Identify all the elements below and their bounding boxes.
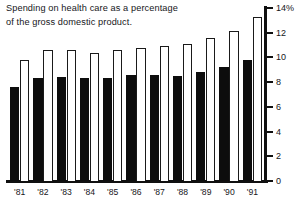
x-axis-label: '83 [61, 187, 72, 197]
bar-white [183, 44, 192, 181]
bar-white [229, 31, 238, 181]
bar-group [217, 8, 240, 181]
bar-black [103, 78, 112, 181]
bar-black [33, 78, 42, 181]
bar-white [160, 46, 169, 181]
bar-black [196, 72, 205, 181]
y-axis-tick-label: 10 [276, 52, 286, 62]
bar-white [43, 50, 52, 181]
y-axis-tick-label: 12 [276, 28, 286, 38]
y-axis-tick-label: 4 [276, 127, 281, 137]
y-axis-tick [264, 131, 273, 133]
x-axis-label: '84 [84, 187, 95, 197]
x-axis-label: '81 [14, 187, 25, 197]
bar-group [78, 8, 101, 181]
bar-black [10, 87, 19, 181]
plot-area [8, 8, 264, 181]
y-axis-tick-label: 2 [276, 151, 281, 161]
bar-white [90, 53, 99, 182]
bar-group [241, 8, 264, 181]
bar-white [206, 38, 215, 181]
bar-group [194, 8, 217, 181]
y-axis-tick [264, 106, 273, 108]
y-axis-tick [264, 155, 273, 157]
y-axis-tick-label: 8 [276, 77, 281, 87]
x-axis-label: '87 [154, 187, 165, 197]
bar-white [136, 48, 145, 181]
bar-group [101, 8, 124, 181]
y-axis-tick [264, 7, 273, 9]
y-axis-tick [264, 56, 273, 58]
bar-black [57, 77, 66, 181]
y-axis-tick [264, 32, 273, 34]
bar-white [113, 50, 122, 181]
x-axis-label: '89 [200, 187, 211, 197]
y-axis-tick [264, 81, 273, 83]
bar-white [20, 60, 29, 181]
y-axis-tick [264, 180, 273, 182]
x-axis-label: '86 [130, 187, 141, 197]
bar-group [124, 8, 147, 181]
bar-group [171, 8, 194, 181]
bar-black [150, 75, 159, 181]
y-axis-tick-label: 14% [276, 3, 294, 13]
bar-black [173, 76, 182, 181]
bar-black [80, 78, 89, 181]
bar-white [253, 17, 262, 181]
y-axis-tick-label: 0 [276, 176, 281, 186]
x-axis-label: '88 [177, 187, 188, 197]
health-care-spending-chart: Spending on health care as a percentage … [0, 0, 305, 222]
x-axis-label: '85 [107, 187, 118, 197]
bar-group [55, 8, 78, 181]
x-axis-label: '82 [37, 187, 48, 197]
x-axis-label: '91 [247, 187, 258, 197]
bar-black [219, 67, 228, 181]
bar-white [67, 50, 76, 181]
bar-black [243, 60, 252, 181]
bar-group [148, 8, 171, 181]
bar-group [8, 8, 31, 181]
x-axis-label: '90 [223, 187, 234, 197]
y-axis-tick-label: 6 [276, 102, 281, 112]
bar-group [31, 8, 54, 181]
bar-black [126, 75, 135, 181]
